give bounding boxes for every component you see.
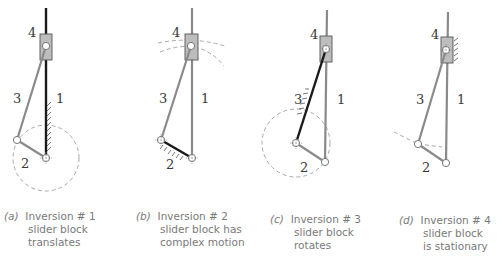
pin-joint: [321, 158, 328, 165]
pin-joint: [442, 159, 449, 166]
label-link-1: 1: [56, 91, 64, 106]
label-link-4: 4: [431, 27, 439, 42]
panel-c: 4 3 1 2: [262, 10, 345, 177]
pin-joint: [42, 42, 49, 49]
caption-title: Inversion # 2: [158, 210, 228, 222]
caption-tag: (c): [270, 213, 284, 225]
label-link-1: 1: [337, 92, 345, 107]
label-link-3: 3: [159, 91, 167, 106]
caption-title: Inversion # 1: [25, 210, 95, 222]
caption-tag: (b): [136, 210, 151, 222]
label-link-4: 4: [172, 25, 180, 40]
pin-joint: [187, 42, 194, 49]
caption-a: (a) Inversion # 1 slider block translate…: [4, 210, 96, 249]
ground-pin-joint: [290, 137, 302, 149]
label-link-3: 3: [416, 92, 424, 107]
link-1-rod: [446, 12, 448, 163]
label-link-2: 2: [21, 156, 29, 171]
panel-b: 4 3 1 2: [155, 8, 225, 172]
label-link-2: 2: [166, 157, 174, 172]
label-link-4: 4: [310, 27, 318, 42]
caption-line: complex motion: [136, 236, 245, 249]
caption-title: Inversion # 4: [421, 214, 491, 226]
pin-joint: [13, 136, 20, 143]
caption-c: (c) Inversion # 3 slider block rotates: [270, 213, 361, 252]
caption-line: rotates: [270, 239, 361, 252]
caption-b: (b) Inversion # 2 slider block has compl…: [136, 210, 245, 249]
label-link-1: 1: [457, 92, 465, 107]
label-link-3: 3: [294, 92, 302, 107]
caption-line: slider block has: [136, 223, 245, 236]
label-link-4: 4: [28, 25, 36, 40]
label-link-3: 3: [13, 91, 21, 106]
caption-line: is stationary: [399, 240, 491, 253]
link-1-rod: [325, 10, 327, 162]
caption-d: (d) Inversion # 4 slider block is statio…: [399, 214, 491, 253]
pin-joint: [414, 140, 421, 147]
panel-d: 4 3 1 2: [394, 12, 465, 175]
ground-pin-joint: [155, 134, 167, 146]
ground-hatch: [454, 38, 458, 61]
caption-line: slider block: [270, 226, 361, 239]
caption-title: Inversion # 3: [291, 213, 361, 225]
ground-hatch: [47, 102, 51, 151]
caption-line: slider block: [399, 227, 491, 240]
label-link-1: 1: [201, 91, 209, 106]
caption-tag: (d): [399, 214, 414, 226]
label-link-2: 2: [422, 160, 430, 175]
caption-tag: (a): [4, 210, 19, 222]
label-link-2: 2: [300, 160, 308, 175]
link-3-coupler: [17, 46, 46, 140]
panel-a: 4 3 1 2: [13, 8, 79, 191]
caption-line: translates: [4, 236, 96, 249]
caption-line: slider block: [4, 223, 96, 236]
